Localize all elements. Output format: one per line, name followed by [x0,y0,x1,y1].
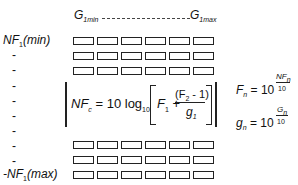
grid-cell [73,37,94,45]
g1-max-label: G1max [190,9,216,26]
grid-cell [169,52,190,60]
grid-cell [145,156,166,164]
row-dash: - [12,110,16,122]
left-bracket [150,85,156,125]
grid-cell [169,141,190,149]
gn-eq: = 10 [250,116,274,130]
grid-cell [193,37,214,45]
grid-cell [121,37,142,45]
nf-suffix: (min) [23,33,50,47]
f1-sub: 1 [165,106,169,113]
fn-formula: Fn = 10 [236,84,274,101]
row-dash: - [12,140,16,152]
g-min-base: G [74,8,83,22]
grid-cell [145,171,166,179]
grid-cell [193,156,214,164]
row-dash: - [12,64,16,76]
grid-cell [73,52,94,60]
grid-cell [193,67,214,75]
fraction-line [175,102,205,103]
row-dash: - [12,95,16,107]
grid-cell [73,141,94,149]
grid-cell [73,156,94,164]
row-dash: - [12,125,16,137]
g-min-sub: 1min [83,16,98,23]
grid-cell [169,37,190,45]
num: (F [175,88,185,100]
grid-cell [121,156,142,164]
fn-exp-den: 10 [278,83,286,95]
nf-prefix: -NF [3,167,23,181]
den-sub: 1 [193,113,197,120]
den: g [186,105,193,119]
grid-cell [145,67,166,75]
fn-exp: NF [276,72,287,81]
nf-prefix: NF [3,33,19,47]
left-bar [65,82,67,127]
grid-cell [97,171,118,179]
grid-cell [193,52,214,60]
grid-cell [169,171,190,179]
fraction-denominator: g1 [186,106,197,123]
num-rest: - 1) [189,88,209,100]
grid-cell [73,67,94,75]
grid-cell [169,67,190,75]
grid-cell [121,67,142,75]
grid-cell [145,141,166,149]
g1-min-label: G1min [74,9,99,26]
grid-cell [121,141,142,149]
g-max-base: G [190,8,199,22]
nf-suffix: (max) [27,167,58,181]
grid-cell [193,141,214,149]
eq-log: = 10 log [95,96,142,111]
gn-formula: gn = 10 [236,117,274,134]
g-max-sub: 1max [199,16,216,23]
row-dash: - [12,155,16,167]
nfc-sub: c [88,106,92,113]
nfc: NF [71,96,88,111]
grid-cell [121,52,142,60]
grid-cell [97,156,118,164]
grid-cell [169,156,190,164]
nf1-max-label: -NF1(max) [3,168,58,185]
grid-cell [145,52,166,60]
log-base: 10 [142,106,150,113]
cascade-formula-lhs: NFc = 10 log10 [71,98,150,116]
fn-sub: n [243,91,247,98]
row-dash: - [12,80,16,92]
grid-cell [121,171,142,179]
row-dash: - [12,49,16,61]
gn-lhs: g [236,116,243,130]
f1: F [157,96,165,111]
gn-sub: n [243,124,247,131]
grid-cell [97,37,118,45]
grid-cell [193,171,214,179]
gain-range-dashed-line [102,18,190,19]
right-bar [215,82,217,127]
gn-exp-den: 10 [277,116,285,128]
grid-cell [97,141,118,149]
grid-cell [97,67,118,75]
fn-eq: = 10 [251,83,275,97]
grid-cell [97,52,118,60]
nf1-min-label: NF1(min) [3,34,50,51]
grid-cell [145,37,166,45]
grid-cell [73,171,94,179]
